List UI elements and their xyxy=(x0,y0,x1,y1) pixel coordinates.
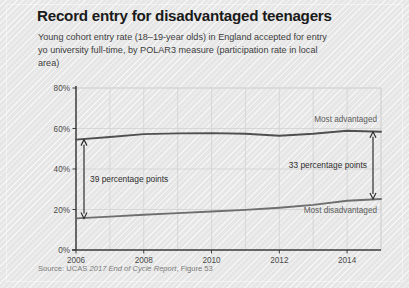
source-prefix: Source: UCAS xyxy=(38,264,90,273)
series-line-most-advantaged xyxy=(76,131,381,140)
plot-area: 0%20%40%60%80% 20062008201020122014 Most… xyxy=(0,0,409,288)
y-tick-label: 40% xyxy=(54,165,70,174)
y-tick-label: 80% xyxy=(54,84,70,93)
source-report-title: 2017 End of Cycle Report xyxy=(90,264,177,273)
annotation-label: 33 percentage points xyxy=(289,160,367,170)
y-tick-label: 20% xyxy=(54,206,70,215)
source-note: Source: UCAS 2017 End of Cycle Report, F… xyxy=(38,264,213,273)
y-tick-label: 0% xyxy=(58,246,70,255)
figure-container: Record entry for disadvantaged teenagers… xyxy=(0,0,409,288)
y-axis-ticks: 0%20%40%60%80% xyxy=(54,84,76,255)
x-tick-label: 2012 xyxy=(270,256,289,265)
annotation-label: 39 percentage points xyxy=(90,174,168,184)
line-chart-svg: 0%20%40%60%80% 20062008201020122014 Most… xyxy=(0,0,409,288)
source-suffix: , Figure 53 xyxy=(176,264,212,273)
series-label-most-disadvantaged: Most disadvantaged xyxy=(304,206,378,215)
series-label-most-advantaged: Most advantaged xyxy=(314,115,377,124)
x-tick-label: 2014 xyxy=(338,256,357,265)
x-axis-ticks: 20062008201020122014 xyxy=(67,250,357,265)
y-tick-label: 60% xyxy=(54,125,70,134)
